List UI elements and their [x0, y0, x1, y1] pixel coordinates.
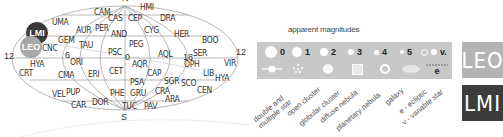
- galaxy-icon: [400, 62, 422, 76]
- constellation-label: CET: [109, 67, 123, 76]
- magnitude-0: 0: [265, 45, 285, 59]
- ecliptic-label: e: [434, 67, 439, 76]
- magnitude-1: 1: [292, 45, 310, 59]
- constellation-label: GRU: [130, 89, 146, 98]
- legend-box: 0 1 2 3 4 5 v. e: [257, 42, 452, 79]
- mag-label: 1: [305, 47, 310, 57]
- mag-label: 2: [331, 47, 336, 57]
- magnitude-2: 2: [320, 45, 336, 59]
- constellation-label: AND: [111, 30, 127, 39]
- mag-label: 0: [280, 47, 285, 57]
- constellation-label: CRT: [19, 69, 33, 78]
- mag-label: 3: [357, 47, 362, 57]
- pole-label-south: S: [121, 113, 127, 122]
- ra-label: 0: [125, 53, 130, 62]
- lmi-tag-label: LMI: [464, 91, 501, 116]
- leo-highlight-badge: LEO: [20, 36, 42, 58]
- leo-badge-label: LEO: [22, 42, 41, 52]
- planetary-nebula-icon: [378, 62, 392, 76]
- ra-label: 12: [4, 52, 14, 61]
- constellation-label: CMA: [58, 71, 74, 80]
- open-cluster-icon: [291, 62, 305, 76]
- variable-star: v.: [421, 45, 447, 59]
- legend-title: apparent magnitudes: [288, 25, 359, 34]
- star-mag-1-icon: [292, 47, 302, 57]
- star-mag-2-icon: [320, 48, 328, 56]
- constellation-label: ERI: [88, 70, 100, 79]
- constellation-label: AQL: [158, 50, 172, 59]
- magnitude-5: 5: [400, 45, 412, 59]
- constellation-label: ARA: [165, 95, 180, 104]
- variable-star-open-icon: [421, 49, 428, 56]
- constellation-label: PER: [95, 24, 109, 33]
- constellation-label: VEL: [52, 90, 65, 99]
- constellation-label: VIR: [224, 59, 236, 68]
- ecliptic-icon: e: [425, 62, 449, 76]
- constellation-label: PAV: [144, 102, 157, 111]
- star-mag-4-icon: [374, 50, 379, 55]
- star-mag-5-icon: [400, 50, 404, 54]
- star-mag-3-icon: [348, 49, 354, 55]
- constellation-label: HYA: [215, 74, 229, 83]
- constellation-label: CEP: [128, 14, 142, 23]
- constellation-label: PEG: [129, 40, 143, 49]
- constellation-label: CAR: [71, 101, 86, 110]
- constellation-label: LIB: [203, 69, 214, 78]
- variable-star-filled-icon: [431, 49, 437, 55]
- constellation-label: CNC: [42, 44, 58, 53]
- constellation-label: CAP: [147, 69, 161, 78]
- constellation-label: HER: [174, 30, 189, 39]
- variable-label: v.: [440, 47, 447, 57]
- mag-label: 5: [407, 47, 412, 57]
- constellation-label: UMA: [52, 18, 69, 27]
- leo-tag: LEO: [462, 42, 503, 78]
- leo-tag-label: LEO: [461, 48, 503, 73]
- lmi-tag: LMI: [462, 85, 503, 121]
- magnitude-3: 3: [348, 45, 362, 59]
- constellation-label: BOO: [202, 36, 218, 45]
- sky-chart: N S 12 6 0 18 12 LMI LEO CAMHMIUMACASCEP…: [0, 0, 250, 137]
- globular-cluster-icon: [321, 62, 335, 76]
- constellation-label: OPH: [184, 60, 199, 69]
- constellation-label: SCO: [181, 79, 196, 88]
- constellation-label: ORI: [70, 58, 83, 67]
- constellation-label: CAS: [108, 14, 123, 23]
- mag-label: 4: [382, 47, 387, 57]
- constellation-label: TAU: [79, 41, 93, 50]
- constellation-label: PSA: [130, 78, 144, 87]
- magnitude-4: 4: [374, 45, 387, 59]
- double-star-icon: [261, 62, 283, 76]
- constellation-label: SER: [193, 49, 207, 58]
- constellation-label: DRA: [160, 14, 175, 23]
- constellation-label: PUP: [66, 88, 80, 97]
- constellation-label: CEN: [197, 86, 212, 95]
- constellation-label: DOR: [92, 98, 108, 107]
- ra-label: 12: [236, 48, 246, 57]
- constellation-label: AUR: [76, 26, 91, 35]
- pole-label-north: N: [122, 0, 129, 3]
- constellation-label: SGR: [164, 77, 179, 86]
- constellation-label: PSC: [108, 48, 122, 57]
- diffuse-nebula-icon: [350, 62, 364, 76]
- constellation-label: HMI: [140, 3, 154, 12]
- constellation-label: PHE: [110, 89, 124, 98]
- constellation-label: GEM: [58, 36, 74, 45]
- constellation-label: AQR: [132, 60, 148, 69]
- constellation-label: TUC: [122, 102, 137, 111]
- constellation-label: CYG: [144, 26, 159, 35]
- star-mag-0-icon: [265, 46, 277, 58]
